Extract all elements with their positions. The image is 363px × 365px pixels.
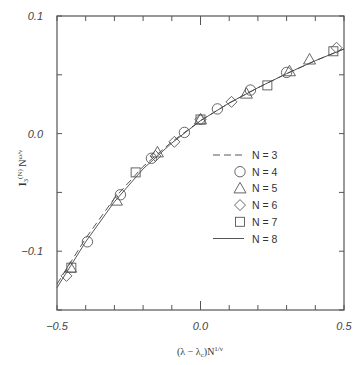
legend-item-n8: N = 8 (213, 233, 278, 245)
legend-label: N = 7 (252, 216, 278, 228)
diamond-icon (235, 200, 246, 211)
square-marker (263, 81, 272, 90)
axes-frame (57, 16, 344, 310)
triangle-icon (234, 182, 246, 193)
curve-n3-dashed (57, 49, 344, 284)
square-icon (236, 217, 245, 226)
legend-label: N = 6 (252, 199, 278, 211)
legend-item-n3: N = 3 (213, 149, 278, 161)
curves (57, 49, 344, 288)
legend-item-n5: N = 5 (234, 182, 278, 194)
tick-labels: −0.50.00.5−0.10.00.1 (21, 10, 352, 332)
y-axis-label: I3(N) Nω/ν (16, 150, 30, 187)
y-tick-label: 0.1 (28, 10, 43, 22)
axis-ticks (57, 16, 344, 310)
legend-label: N = 3 (252, 149, 278, 161)
x-tick-label: 0.5 (336, 320, 352, 332)
legend-label: N = 8 (252, 233, 278, 245)
x-axis-label: (λ − λc)N1/ν (177, 345, 223, 359)
legend-label: N = 5 (252, 182, 278, 194)
y-tick-label: −0.1 (21, 245, 43, 257)
circle-marker (212, 104, 222, 114)
x-tick-label: −0.5 (46, 320, 69, 332)
y-tick-label: 0.0 (28, 128, 44, 140)
triangle-marker (304, 54, 316, 65)
legend-item-n4: N = 4 (235, 166, 278, 178)
square-marker (131, 168, 140, 177)
legend-item-n7: N = 7 (236, 216, 278, 228)
curve-n8-solid (57, 49, 344, 288)
legend-label: N = 4 (252, 166, 278, 178)
legend-item-n6: N = 6 (235, 199, 278, 211)
legend: N = 3N = 4N = 5N = 6N = 7N = 8 (213, 149, 278, 245)
x-tick-label: 0.0 (193, 320, 209, 332)
data-markers (61, 42, 342, 281)
circle-icon (235, 167, 245, 177)
scaling-plot: −0.50.00.5−0.10.00.1 N = 3N = 4N = 5N = … (0, 0, 363, 365)
plot-frame (57, 16, 344, 310)
